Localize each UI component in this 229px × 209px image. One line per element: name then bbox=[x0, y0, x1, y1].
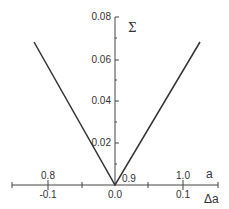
y-tick-label: 0.06 bbox=[92, 54, 112, 65]
x-tick-label: -0.1 bbox=[39, 189, 57, 200]
y-axis-title: Σ bbox=[128, 21, 136, 35]
x-axis-title: Δa bbox=[204, 192, 219, 206]
y-tick-label: 0.02 bbox=[92, 137, 112, 148]
y-ticks bbox=[115, 17, 119, 164]
y-tick-label: 0.08 bbox=[92, 11, 112, 22]
x-secondary-tick-label: 0.8 bbox=[41, 170, 55, 181]
x-secondary-axis-title: a bbox=[206, 167, 213, 181]
chart: 0.08 0.06 0.04 0.02 Σ 0.8 0.9 1.0 a -0.1… bbox=[0, 0, 229, 209]
x-secondary-tick-label: 0.9 bbox=[122, 173, 136, 184]
x-tick-label: 0.1 bbox=[176, 189, 190, 200]
y-tick-label: 0.04 bbox=[92, 95, 112, 106]
x-secondary-tick-label: 1.0 bbox=[176, 170, 190, 181]
x-tick-label: 0.0 bbox=[108, 189, 122, 200]
